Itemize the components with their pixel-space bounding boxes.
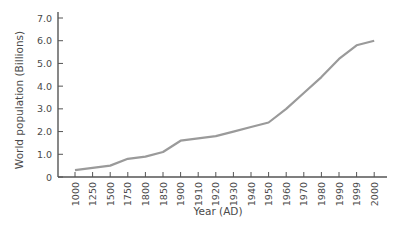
x-tick-label: 1970 (298, 182, 309, 206)
x-tick-label: 1250 (87, 182, 98, 206)
x-tick-label: 1940 (246, 182, 257, 206)
x-tick-label: 1750 (122, 182, 133, 206)
x-tick-label: 1900 (175, 182, 186, 206)
x-axis-title: Year (AD) (192, 205, 242, 217)
y-tick-label: 2.0 (37, 126, 52, 137)
x-tick-label: 1960 (281, 182, 292, 206)
x-tick-label: 1910 (193, 182, 204, 206)
population-series-line (75, 41, 374, 171)
y-tick-label: 0 (46, 172, 52, 183)
x-tick-label: 2000 (369, 182, 380, 206)
x-tick-label: 1000 (70, 182, 81, 206)
y-axis-ticks: 01.02.03.04.05.06.07.0 (37, 13, 63, 183)
y-axis-title: World population (Billions) (13, 31, 25, 169)
y-tick-label: 5.0 (37, 58, 52, 69)
y-tick-label: 4.0 (37, 81, 52, 92)
x-tick-label: 1800 (140, 182, 151, 206)
x-tick-label: 1930 (228, 182, 239, 206)
x-tick-label: 1950 (263, 182, 274, 206)
y-tick-label: 1.0 (37, 149, 52, 160)
x-tick-label: 1980 (316, 182, 327, 206)
x-tick-label: 1999 (351, 182, 362, 206)
x-tick-label: 1990 (334, 182, 345, 206)
y-tick-label: 6.0 (37, 35, 52, 46)
population-line-chart: 01.02.03.04.05.06.07.0 10001250150017501… (0, 0, 403, 229)
x-tick-label: 1850 (158, 182, 169, 206)
x-tick-label: 1920 (210, 182, 221, 206)
y-tick-label: 7.0 (37, 13, 52, 24)
x-tick-label: 1500 (105, 182, 116, 206)
y-tick-label: 3.0 (37, 103, 52, 114)
